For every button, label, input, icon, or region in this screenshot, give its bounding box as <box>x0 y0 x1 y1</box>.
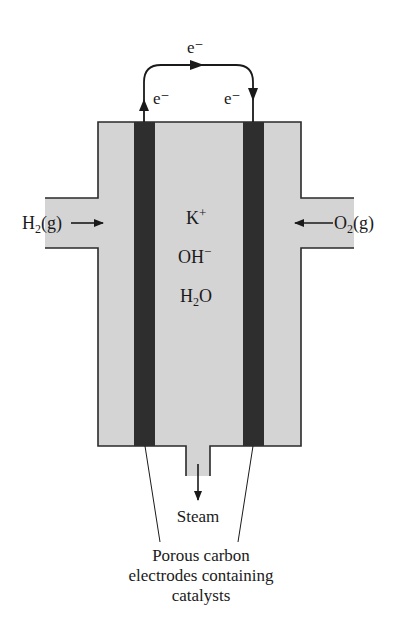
electron-label-top: e⁻ <box>187 38 204 57</box>
anode-leader-line <box>145 446 160 542</box>
anode-electrode <box>134 122 155 446</box>
caption-line-2: electrodes containing <box>0 566 402 586</box>
cathode-leader-line <box>238 446 253 542</box>
electron-right-arrow-icon <box>190 60 204 70</box>
electron-down-arrow-icon <box>248 88 258 101</box>
hydrogen-input-label: H2(g) <box>22 213 62 236</box>
electron-up-arrow-icon <box>139 99 149 111</box>
electron-label-right: e⁻ <box>224 89 241 108</box>
oxygen-input-label: O2(g) <box>334 213 374 236</box>
electrode-caption: Porous carbon electrodes containing cata… <box>0 546 402 606</box>
caption-line-3: catalysts <box>0 586 402 606</box>
fuel-cell-diagram: e⁻ e⁻ e⁻ H2(g) O2(g) K+ OH− H2O Steam <box>0 0 402 638</box>
steam-label: Steam <box>177 507 220 526</box>
cathode-electrode <box>243 122 264 446</box>
electron-label-left: e⁻ <box>153 89 170 108</box>
caption-line-1: Porous carbon <box>0 546 402 566</box>
